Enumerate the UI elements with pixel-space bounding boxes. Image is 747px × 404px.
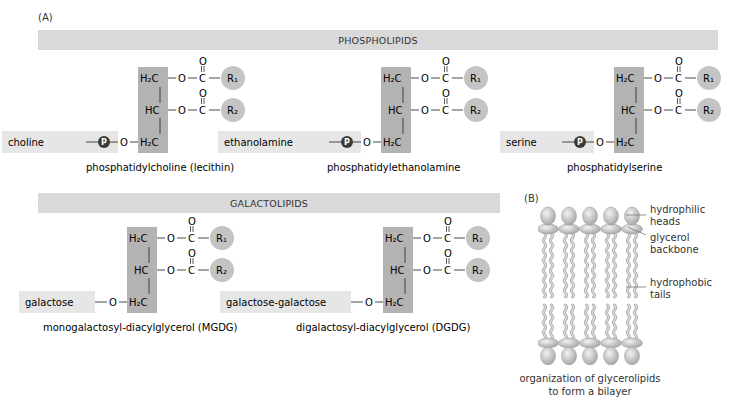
glycerol-backbone-label: glycerol backbone	[650, 232, 699, 256]
bilayer-caption: organization of glycerolipids to form a …	[505, 372, 675, 398]
atom-hc: HC	[390, 265, 405, 276]
hydrophilic-head-shape	[541, 347, 556, 365]
hydrophilic-head-shape	[625, 347, 640, 365]
glycerol-backbone-shape	[538, 338, 559, 348]
hydrophilic-head-shape	[604, 207, 619, 225]
hydrophilic-head-shape	[583, 347, 598, 365]
hydrophilic-head-shape	[562, 207, 577, 225]
r2-label: R₂	[472, 265, 483, 276]
hydrophilic-head-shape	[604, 347, 619, 365]
hydrophilic-head-shape	[583, 207, 598, 225]
atom-c: C	[444, 233, 451, 244]
hydrophilic-heads-label: hydrophilic heads	[650, 204, 705, 228]
hydrophilic-head-shape	[562, 347, 577, 365]
atom-c: C	[444, 265, 451, 276]
head-group-label: galactose-galactose	[226, 297, 326, 308]
atom-h2c: H₂C	[385, 297, 404, 308]
molecule-name-caption: digalactosyl-diacylglycerol (DGDG)	[296, 322, 470, 333]
atom-o: O	[423, 233, 431, 244]
glycerol-backbone-shape	[559, 338, 580, 348]
glycerol-backbone-shape	[601, 338, 622, 348]
glycerol-backbone-shape	[580, 224, 601, 234]
glycerol-backbone-shape	[538, 224, 559, 234]
glycerol-backbone-shape	[622, 338, 643, 348]
atom-o: O	[365, 297, 373, 308]
atom-o: O	[444, 216, 452, 227]
hydrophobic-tails-label: hydrophobic tails	[650, 277, 712, 301]
atom-o: O	[444, 248, 452, 259]
atom-h2c: H₂C	[385, 233, 404, 244]
glycerol-backbone-shape	[559, 224, 580, 234]
glycerol-backbone-shape	[601, 224, 622, 234]
panel-b-label: (B)	[524, 193, 539, 204]
bilayer-leader-lines	[620, 205, 650, 305]
glycerol-backbone-shape	[580, 338, 601, 348]
atom-o: O	[423, 265, 431, 276]
r1-label: R₁	[472, 233, 483, 244]
hydrophilic-head-shape	[541, 207, 556, 225]
